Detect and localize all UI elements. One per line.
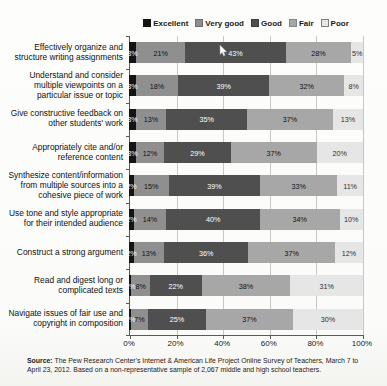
category-label: Give constructive feedback on other stud…	[8, 109, 129, 129]
bar-segment-value: 36%	[199, 248, 213, 257]
category-label: Read and digest long or complicated text…	[8, 276, 129, 296]
bar-segment: 38%	[202, 275, 291, 296]
bar-segment-value: 7%	[134, 315, 144, 324]
bar-segment: 21%	[136, 42, 185, 63]
bar-segment: 14%	[134, 209, 167, 230]
bar-segment-value: 22%	[169, 281, 183, 290]
bar-row: Effectively organize and structure writi…	[8, 36, 365, 69]
legend-swatch-icon	[251, 19, 259, 27]
bar-segment: 37%	[206, 309, 293, 330]
bar-row: Give constructive feedback on other stud…	[8, 103, 365, 136]
bar-segment: 30%	[293, 309, 363, 330]
category-label: Effectively organize and structure writi…	[8, 43, 129, 63]
legend-item: Good	[251, 19, 282, 28]
legend-label: Very good	[205, 19, 244, 28]
bar-segment-value: 40%	[206, 215, 220, 224]
plot-area: Effectively organize and structure writi…	[8, 36, 365, 336]
bar-segment: 32%	[269, 75, 344, 96]
bar-segment-value: 38%	[239, 281, 253, 290]
source-note: Source: The Pew Research Center's Intern…	[27, 357, 362, 375]
bar-row: Understand and consider multiple viewpoi…	[8, 69, 365, 102]
bar-segment-value: 10%	[344, 215, 358, 224]
chart-page: ExcellentVery goodGoodFairPoor Effective…	[0, 0, 387, 386]
bar-row: Navigate issues of fair use and copyrigh…	[8, 303, 365, 336]
category-label: Navigate issues of fair use and copyrigh…	[8, 309, 129, 329]
bar-segment: 37%	[248, 242, 335, 263]
bar-track: 1%8%22%38%31%	[129, 275, 363, 296]
bar-segment: 40%	[166, 209, 260, 230]
legend-label: Fair	[299, 19, 314, 28]
bar-segment: 37%	[247, 109, 333, 130]
legend-swatch-icon	[289, 19, 297, 27]
bar-segment-value: 32%	[300, 81, 314, 90]
x-tick-label: 80%	[307, 339, 323, 348]
bar-track: 1%7%25%37%30%	[129, 309, 363, 330]
bar-segment: 7%	[131, 309, 147, 330]
bar-segment: 43%	[185, 42, 286, 63]
bar-segment-value: 13%	[144, 115, 158, 124]
bar-segment-value: 21%	[153, 48, 167, 57]
bar-segment: 10%	[340, 209, 363, 230]
bar-segment: 8%	[344, 75, 363, 96]
category-label: Construct a strong argument	[8, 248, 129, 258]
bar-segment: 3%	[129, 42, 136, 63]
bar-segment-value: 11%	[343, 181, 357, 190]
bar-track: 3%18%39%32%8%	[129, 75, 363, 96]
bar-segment-value: 8%	[348, 81, 358, 90]
legend-item: Excellent	[143, 19, 188, 28]
legend-item: Poor	[321, 19, 349, 28]
bar-segment: 3%	[129, 75, 136, 96]
bar-segment: 33%	[260, 175, 337, 196]
source-label: Source:	[27, 357, 53, 364]
legend-label: Poor	[331, 19, 349, 28]
bar-segment-value: 34%	[293, 215, 307, 224]
category-label: Synthesize content/information from mult…	[8, 171, 129, 201]
x-tick-label: 100%	[352, 339, 372, 348]
bar-segment-value: 37%	[267, 148, 281, 157]
legend-swatch-icon	[321, 19, 329, 27]
bar-segment: 15%	[134, 175, 169, 196]
bar-segment: 20%	[317, 142, 363, 163]
bar-segment: 8%	[131, 275, 150, 296]
bar-segment-value: 25%	[170, 315, 184, 324]
bar-row: Construct a strong argument2%13%36%37%12…	[8, 236, 365, 269]
bar-track: 3%12%29%37%20%	[129, 142, 363, 163]
bar-segment: 34%	[260, 209, 340, 230]
legend-label: Excellent	[153, 19, 188, 28]
bar-segment: 39%	[169, 175, 260, 196]
x-tick-label: 40%	[214, 339, 230, 348]
bar-segment: 12%	[136, 142, 164, 163]
legend: ExcellentVery goodGoodFairPoor	[118, 16, 374, 30]
bar-segment-value: 12%	[342, 248, 356, 257]
x-tick-label: 60%	[261, 339, 277, 348]
bar-segment-value: 39%	[217, 81, 231, 90]
bar-segment: 12%	[335, 242, 363, 263]
category-label: Understand and consider multiple viewpoi…	[8, 71, 129, 101]
legend-label: Good	[261, 19, 282, 28]
bar-segment-value: 29%	[190, 148, 204, 157]
bar-segment: 29%	[164, 142, 231, 163]
x-tick-label: 20%	[168, 339, 184, 348]
bar-segment: 3%	[129, 109, 136, 130]
bar-segment-value: 5%	[352, 48, 362, 57]
bar-segment: 13%	[136, 109, 166, 130]
bar-segment: 28%	[286, 42, 352, 63]
bar-segment-value: 8%	[135, 281, 145, 290]
bar-track: 3%13%35%37%13%	[129, 109, 363, 130]
bar-track: 3%21%43%28%5%	[129, 42, 363, 63]
bar-segment: 3%	[129, 142, 136, 163]
bar-segment: 36%	[164, 242, 248, 263]
category-label: Appropriately cite and/or reference cont…	[8, 143, 129, 163]
legend-item: Very good	[195, 19, 244, 28]
legend-swatch-icon	[143, 19, 151, 27]
bar-segment-value: 37%	[283, 115, 297, 124]
bar-segment-value: 18%	[150, 81, 164, 90]
bar-row: Use tone and style appropriate for their…	[8, 203, 365, 236]
bar-segment: 39%	[178, 75, 269, 96]
bar-segment-value: 13%	[341, 115, 355, 124]
mouse-cursor-icon	[219, 44, 228, 57]
bar-segment-value: 33%	[291, 181, 305, 190]
bar-segment: 37%	[231, 142, 317, 163]
bar-segment-value: 37%	[242, 315, 256, 324]
bar-segment: 31%	[290, 275, 363, 296]
